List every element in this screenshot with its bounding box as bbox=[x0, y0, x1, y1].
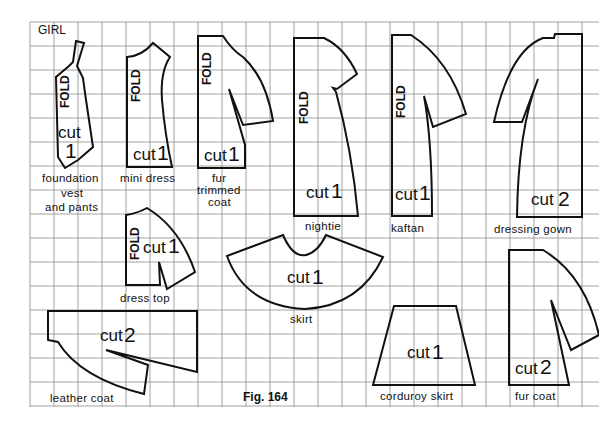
cut-count: 1 bbox=[312, 265, 324, 288]
piece-dressing-gown: cut 2 dressing gown bbox=[494, 34, 582, 235]
cut-count: 1 bbox=[168, 234, 180, 257]
grid bbox=[30, 22, 599, 407]
piece-label: skirt bbox=[290, 313, 313, 325]
cut-text: cut bbox=[395, 185, 418, 204]
figure-label: Fig. 164 bbox=[243, 390, 288, 404]
fold-label: FOLD bbox=[297, 91, 311, 124]
piece-label: kaftan bbox=[391, 222, 424, 234]
cut-text: cut bbox=[100, 326, 123, 345]
piece-label: nightie bbox=[305, 220, 341, 232]
piece-label: foundation bbox=[42, 172, 99, 184]
piece-label: fur bbox=[212, 172, 226, 184]
fold-label: FOLD bbox=[200, 52, 214, 85]
piece-label: leather coat bbox=[50, 392, 114, 404]
piece-label: coat bbox=[208, 196, 231, 208]
fold-label: FOLD bbox=[128, 227, 142, 260]
cut-text: cut bbox=[407, 343, 430, 362]
piece-skirt: cut 1 skirt bbox=[227, 235, 383, 325]
piece-label: vest bbox=[61, 187, 84, 199]
piece-label: dress top bbox=[120, 292, 170, 304]
piece-foundation-vest: FOLD cut 1 foundation vest and pants bbox=[42, 41, 99, 213]
cut-text: cut bbox=[531, 190, 554, 209]
cut-count: 2 bbox=[558, 187, 570, 210]
piece-label: and pants bbox=[45, 201, 98, 213]
cut-count: 2 bbox=[124, 323, 136, 346]
piece-corduroy-skirt: cut 1 corduroy skirt bbox=[373, 306, 475, 402]
pattern-diagram: GIRL FOLD cut 1 foundation vest and pant… bbox=[0, 0, 599, 431]
piece-fur-trimmed-coat: FOLD cut 1 fur trimmed coat bbox=[197, 36, 273, 208]
cut-text: cut bbox=[287, 268, 310, 287]
piece-label: fur coat bbox=[515, 390, 556, 402]
fold-label: FOLD bbox=[394, 85, 408, 118]
cut-count: 1 bbox=[228, 142, 240, 165]
diagram-title: GIRL bbox=[38, 23, 66, 37]
cut-text: cut bbox=[306, 183, 329, 202]
piece-fur-coat: cut 2 fur coat bbox=[509, 250, 599, 402]
cut-count: 1 bbox=[331, 179, 343, 202]
cut-text: cut bbox=[204, 146, 227, 165]
piece-mini-dress: FOLD cut 1 mini dress bbox=[120, 43, 175, 184]
fold-label: FOLD bbox=[129, 69, 143, 102]
fold-label: FOLD bbox=[58, 75, 72, 108]
cut-text: cut bbox=[515, 359, 538, 378]
piece-leather-coat: cut 2 leather coat bbox=[48, 311, 197, 404]
cut-count: 1 bbox=[157, 141, 169, 164]
piece-nightie: FOLD cut 1 nightie bbox=[294, 38, 358, 232]
piece-kaftan: FOLD cut 1 kaftan bbox=[391, 35, 466, 234]
cut-text: cut bbox=[143, 238, 166, 257]
cut-count: 1 bbox=[65, 139, 77, 162]
piece-label: dressing gown bbox=[494, 223, 572, 235]
cut-text: cut bbox=[133, 145, 156, 164]
piece-dress-top: FOLD cut 1 dress top bbox=[120, 208, 195, 304]
piece-label: corduroy skirt bbox=[380, 390, 454, 402]
piece-label: mini dress bbox=[120, 172, 175, 184]
piece-label: trimmed bbox=[197, 184, 241, 196]
cut-count: 1 bbox=[432, 340, 444, 363]
cut-count: 1 bbox=[419, 181, 431, 204]
cut-count: 2 bbox=[540, 355, 552, 378]
